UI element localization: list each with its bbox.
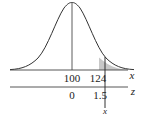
normal-curve-diagram: 100 124 x 0 1.5 z x (0, 0, 146, 115)
value-x-label: 124 (90, 72, 107, 84)
marker-label: x (102, 106, 107, 115)
z-mean-label: 0 (69, 89, 75, 101)
x-axis-label: x (129, 69, 135, 81)
z-value-label: 1.5 (93, 89, 107, 101)
mean-x-label: 100 (64, 72, 81, 84)
z-axis-label: z (130, 85, 136, 97)
